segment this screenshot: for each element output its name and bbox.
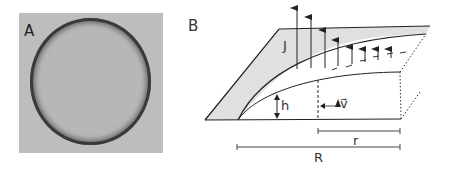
height-label: h <box>281 98 289 113</box>
R-label: R <box>314 150 323 165</box>
droplet-image <box>30 18 151 145</box>
panel-b-label: B <box>188 17 198 35</box>
r-scale-bar <box>318 128 400 134</box>
flux-label: J <box>283 38 287 53</box>
panel-b-diagram: B J h v⃗ r R <box>180 0 449 171</box>
r-label: r <box>353 133 358 148</box>
panel-a-micrograph: A <box>19 13 163 153</box>
panel-a-label: A <box>24 22 34 40</box>
velocity-label: v⃗ <box>340 96 348 111</box>
